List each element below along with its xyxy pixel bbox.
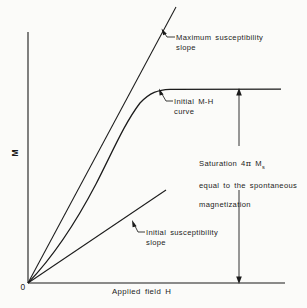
saturation-text-line3: magnetization xyxy=(199,200,251,209)
mh-curve-figure: Maximum susceptibility slope Initial M-H… xyxy=(0,0,307,308)
y-axis-label: M xyxy=(11,142,21,164)
saturation-subscript: s xyxy=(262,163,265,169)
annotation-initial-mh-curve: Initial M-H curve xyxy=(174,97,270,116)
saturation-quantity: M xyxy=(251,159,262,168)
annotation-saturation: Saturation 4π Ms equal to the spontaneou… xyxy=(199,149,303,210)
x-axis-label: Applied field H xyxy=(112,287,242,297)
saturation-text-line2: equal to the spontaneous xyxy=(199,181,297,190)
annotation-maximum-susceptibility: Maximum susceptibility slope xyxy=(176,33,294,52)
origin-label: 0 xyxy=(17,283,29,293)
leader-initial-susceptibility xyxy=(132,220,145,232)
annotation-initial-susceptibility: Initial susceptibility slope xyxy=(146,228,262,247)
saturation-text-prefix: Saturation 4 xyxy=(199,159,246,168)
